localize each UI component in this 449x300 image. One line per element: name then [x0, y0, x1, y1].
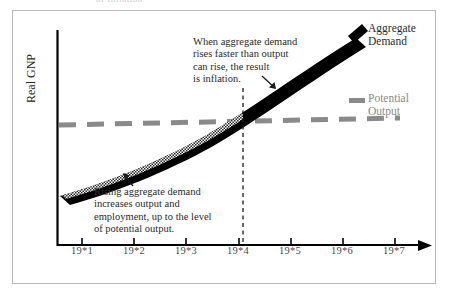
legend-ad-line1: Aggregate — [368, 22, 416, 35]
legend-label-aggregate-demand: Aggregate Demand — [368, 22, 416, 48]
annotation-inflation: When aggregate demand rises faster than … — [193, 36, 297, 86]
legend-swatch-potential-output — [349, 98, 365, 103]
x-tick-label-2: 19*2 — [114, 245, 154, 256]
annotation-inflation-line1: When aggregate demand — [193, 36, 297, 48]
x-tick-label-3: 19*3 — [166, 245, 206, 256]
annotation-output-growth-line2: increases output and — [94, 198, 212, 210]
y-axis-title: Real GNP — [24, 33, 39, 103]
legend-po-line2: Output — [368, 105, 409, 118]
x-tick-label-7: 19*7 — [374, 245, 414, 256]
annotation-output-growth: Rising aggregate demand increases output… — [94, 186, 212, 236]
annotation-output-growth-line1: Rising aggregate demand — [94, 186, 212, 198]
x-tick-label-5: 19*5 — [270, 245, 310, 256]
figure-container: of Inflation — [0, 0, 449, 300]
annotation-inflation-line2: rises faster than output — [193, 48, 297, 60]
x-tick-label-4: 19*4 — [218, 245, 258, 256]
legend-po-line1: Potential — [368, 92, 409, 105]
x-tick-label-6: 19*6 — [322, 245, 362, 256]
annotation-inflation-line4: is inflation. — [193, 73, 297, 85]
annotation-inflation-line3: can rise, the result — [193, 61, 297, 73]
x-tick-label-1: 19*1 — [62, 245, 102, 256]
annotation-output-growth-line3: employment, up to the level — [94, 211, 212, 223]
legend-label-potential-output: Potential Output — [368, 92, 409, 118]
legend-ad-line2: Demand — [368, 35, 416, 48]
annotation-output-growth-line4: of potential output. — [94, 223, 212, 235]
